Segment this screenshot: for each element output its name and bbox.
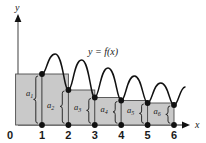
axis-point-5 <box>145 122 151 128</box>
axis-point-4 <box>118 122 124 128</box>
curve-point-x4 <box>118 98 124 104</box>
axis-point-2 <box>66 122 72 128</box>
curve-point-x1 <box>39 71 45 77</box>
y-axis-label: y <box>14 2 20 13</box>
y-axis-arrowhead <box>15 14 22 22</box>
origin-label: 0 <box>7 129 13 141</box>
axis-point-1 <box>39 122 45 128</box>
curve-point-x2 <box>66 87 72 93</box>
curve-point-x5 <box>145 100 151 106</box>
figure-canvas: y x 0 <box>0 0 206 143</box>
x-tick-label-3: 3 <box>92 129 98 141</box>
x-tick-labels-group: 1 2 3 4 5 6 <box>39 129 177 141</box>
axis-point-3 <box>92 122 98 128</box>
riemann-rectangles-figure: y x 0 <box>0 0 206 143</box>
x-axis-arrowhead <box>182 122 190 129</box>
rect-a3 <box>68 90 94 125</box>
function-label: y = f(x) <box>87 46 119 58</box>
x-tick-label-5: 5 <box>145 129 151 141</box>
curve-point-x3 <box>92 95 98 101</box>
x-axis-label: x <box>194 119 200 130</box>
axis-point-6 <box>171 122 177 128</box>
rect-a1 <box>16 74 42 125</box>
curve-point-x6 <box>171 102 177 108</box>
x-tick-label-1: 1 <box>39 129 45 141</box>
x-tick-label-2: 2 <box>65 129 71 141</box>
x-tick-label-4: 4 <box>118 129 125 141</box>
x-tick-label-6: 6 <box>171 129 177 141</box>
